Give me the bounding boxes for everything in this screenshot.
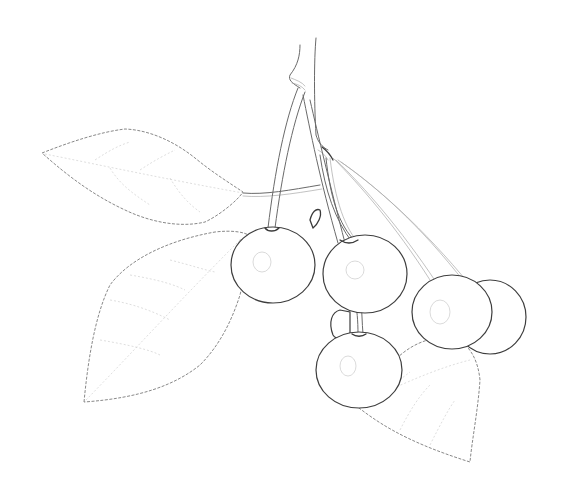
sketch-canvas — [0, 0, 565, 492]
main-stem — [289, 38, 333, 160]
cherry-2 — [323, 235, 407, 313]
cherry-4 — [412, 275, 492, 349]
cherry-sketch — [0, 0, 565, 492]
top-left-leaf — [42, 129, 322, 224]
cherry-1 — [231, 227, 315, 303]
cherry-3 — [316, 332, 402, 408]
